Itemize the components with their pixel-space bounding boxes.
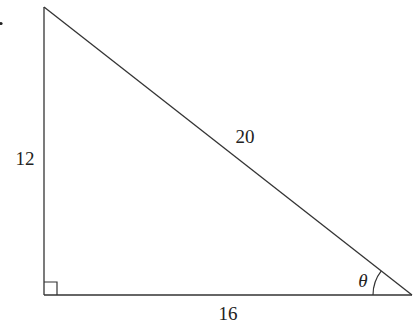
stray-dot [0, 22, 3, 25]
right-angle-marker [44, 282, 57, 295]
label-vertical-side: 12 [16, 148, 35, 169]
label-hypotenuse: 20 [236, 126, 255, 147]
angle-arc [373, 271, 381, 295]
hypotenuse [44, 7, 412, 295]
label-horizontal-side: 16 [219, 303, 238, 324]
label-angle-theta: θ [358, 270, 367, 291]
right-triangle-diagram: 12 20 16 θ [0, 0, 413, 324]
